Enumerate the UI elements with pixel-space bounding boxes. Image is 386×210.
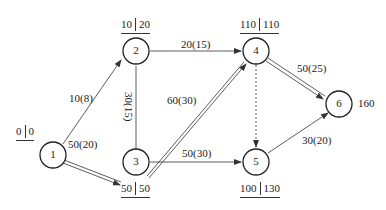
node-5-times: 100130	[240, 182, 280, 198]
early-time: 0	[16, 125, 22, 137]
node-1-label: 1	[43, 149, 63, 160]
early-time: 50	[121, 182, 132, 194]
late-time: 0	[29, 125, 35, 137]
edge-5-6-label: 30(20)	[302, 135, 331, 146]
edge-1-2-label: 10(8)	[69, 93, 93, 104]
node-5-label: 5	[246, 156, 266, 167]
edge-3-4	[147, 62, 246, 178]
edge-1-3-label: 50(20)	[68, 139, 97, 150]
early-time: 10	[121, 18, 132, 30]
edge-1-3	[63, 160, 121, 185]
late-time: 130	[264, 182, 281, 194]
edge-2-4-label: 20(15)	[181, 39, 210, 50]
node-2-label: 2	[126, 45, 146, 56]
node-4-label: 4	[246, 45, 266, 56]
late-time: 20	[139, 18, 150, 30]
edge-3-4-label: 60(30)	[167, 95, 196, 106]
early-time: 110	[240, 18, 256, 30]
early-time: 100	[240, 182, 257, 194]
edge-4-6-label: 50(25)	[297, 63, 326, 74]
late-time: 50	[139, 182, 150, 194]
node-3-label: 3	[126, 156, 146, 167]
edge-5-6	[268, 113, 328, 153]
edge-2-3-label: 30(15)	[123, 92, 134, 121]
late-time: 110	[263, 18, 279, 30]
node-6-total: 160	[358, 98, 375, 109]
node-3-times: 5050	[121, 182, 150, 198]
node-2-times: 1020	[121, 18, 150, 34]
node-4-times: 110110	[240, 18, 279, 34]
node-6-label: 6	[329, 98, 349, 109]
edge-3-5-label: 50(30)	[182, 148, 211, 159]
node-1-times: 00	[16, 125, 34, 141]
network-diagram: 1 2 3 4 5 6 00 1020 5050 110110 100130 1…	[0, 0, 386, 210]
